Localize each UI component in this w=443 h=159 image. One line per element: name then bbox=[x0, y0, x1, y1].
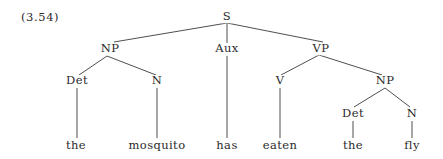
edge-np-n bbox=[107, 56, 156, 75]
leaf-has: has bbox=[215, 140, 238, 152]
edge-np2-det bbox=[354, 88, 385, 107]
edge-np2-n bbox=[385, 88, 410, 107]
node-n-object: N bbox=[406, 108, 418, 120]
example-number: (3.54) bbox=[21, 12, 59, 24]
node-n: N bbox=[151, 75, 163, 87]
node-aux: Aux bbox=[214, 43, 239, 55]
edge-np-det bbox=[79, 56, 107, 75]
node-np: NP bbox=[100, 43, 121, 55]
edge-s-vp bbox=[227, 23, 323, 42]
leaf-the: the bbox=[65, 140, 87, 152]
edge-vp-v bbox=[281, 55, 319, 75]
node-det-object: Det bbox=[341, 108, 365, 120]
node-det: Det bbox=[65, 75, 89, 87]
node-s: S bbox=[222, 11, 232, 23]
leaf-fly: fly bbox=[403, 140, 421, 152]
leaf-the-object: the bbox=[342, 140, 364, 152]
leaf-mosquito: mosquito bbox=[128, 140, 187, 152]
node-np-object: NP bbox=[375, 75, 396, 87]
node-v: V bbox=[275, 75, 286, 87]
node-vp: VP bbox=[312, 43, 331, 55]
edge-vp-np bbox=[319, 55, 382, 75]
leaf-eaten: eaten bbox=[262, 140, 299, 152]
syntax-tree-diagram: (3.54) S NP Aux VP Det N V NP Det N the … bbox=[0, 0, 443, 159]
edge-s-np bbox=[114, 23, 227, 42]
